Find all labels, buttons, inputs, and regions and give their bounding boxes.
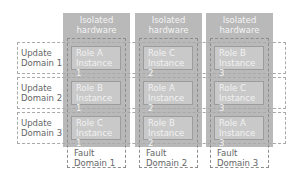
role-instance-r3c2: Role B Instance 2 bbox=[143, 116, 193, 140]
hardware-label-3: Isolated hardware bbox=[206, 15, 273, 35]
role-instance-r3c3: Role A Instance 3 bbox=[214, 116, 264, 140]
role-instance-r2c3: Role C Instance 3 bbox=[214, 81, 264, 105]
hardware-label-2: Isolated hardware bbox=[135, 15, 202, 35]
role-instance-r2c2: Role A Instance 2 bbox=[143, 81, 193, 105]
role-instance-r1c3: Role B Instance 3 bbox=[214, 46, 264, 70]
fault-domain-label-2: Fault Domain 2 bbox=[146, 148, 187, 168]
role-instance-r3c1: Role C Instance 1 bbox=[71, 116, 121, 140]
role-instance-r1c1: Role A Instance 1 bbox=[71, 46, 121, 70]
update-domain-label-3: Update Domain 3 bbox=[21, 118, 62, 138]
fault-domain-label-3: Fault Domain 3 bbox=[217, 148, 258, 168]
fault-domain-label-1: Fault Domain 1 bbox=[74, 148, 115, 168]
hardware-label-1: Isolated hardware bbox=[63, 15, 130, 35]
update-domain-label-2: Update Domain 2 bbox=[21, 83, 62, 103]
role-instance-r1c2: Role C Instance 2 bbox=[143, 46, 193, 70]
role-instance-r2c1: Role B Instance 1 bbox=[71, 81, 121, 105]
update-domain-label-1: Update Domain 1 bbox=[21, 48, 62, 68]
